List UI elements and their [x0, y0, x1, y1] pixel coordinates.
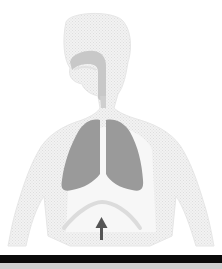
trachea [100, 96, 106, 108]
diagram-canvas [0, 0, 222, 269]
bottom-bar [0, 255, 222, 263]
respiratory-diagram [0, 0, 222, 269]
bottom-strip [0, 263, 222, 269]
